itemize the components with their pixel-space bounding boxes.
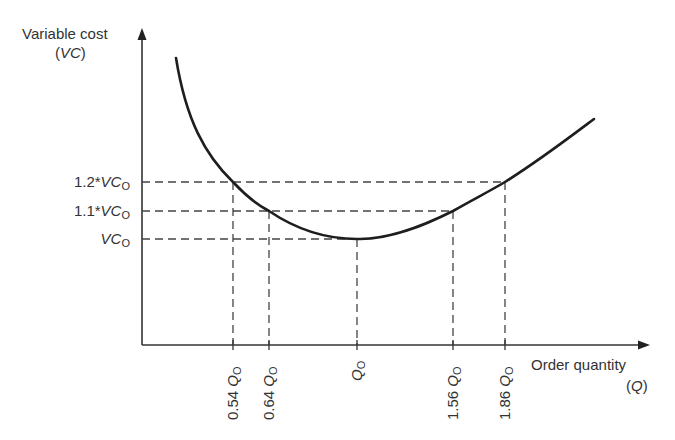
y-tick-sub: O — [121, 209, 130, 221]
x-tick-main: Q — [496, 375, 513, 387]
y-tick-vc: VCO — [0, 231, 130, 246]
variable-cost-curve — [176, 58, 594, 239]
x-tick-prefix: 1.56 — [444, 387, 461, 420]
x-axis-title-text: Order quantity — [531, 356, 626, 373]
x-tick-main: Q — [444, 375, 461, 387]
x-tick-sub: O — [355, 361, 367, 370]
x-tick-sub: O — [231, 366, 243, 375]
x-axis-symbol-text: Q — [631, 377, 643, 394]
y-tick-sub: O — [121, 237, 130, 249]
x-tick-1.56q: 1.56 QO — [445, 366, 460, 420]
x-tick-0.54q: 0.54 QO — [225, 366, 240, 420]
x-tick-main: Q — [260, 375, 277, 387]
y-tick-1.2vc: 1.2*VCO — [0, 174, 130, 189]
x-tick-main: Q — [348, 369, 365, 381]
x-tick-prefix: 0.64 — [260, 387, 277, 420]
chart-canvas — [0, 0, 675, 440]
x-tick-1.86q: 1.86 QO — [497, 366, 512, 420]
axes — [138, 28, 651, 350]
y-tick-main: VC — [101, 202, 122, 219]
y-tick-1.1vc: 1.1*VCO — [0, 203, 130, 218]
x-tick-prefix: 0.54 — [224, 387, 241, 420]
x-axis-arrow-icon — [638, 341, 650, 350]
x-tick-sub: O — [451, 366, 463, 375]
y-axis-arrow-icon — [138, 28, 147, 40]
x-tick-sub: O — [267, 366, 279, 375]
y-tick-prefix: 1.2* — [74, 173, 101, 190]
y-tick-main: VC — [101, 230, 122, 247]
y-tick-sub: O — [121, 180, 130, 192]
y-tick-main: VC — [101, 173, 122, 190]
x-tick-0.64q: 0.64 QO — [261, 366, 276, 420]
y-axis-symbol: (VC) — [55, 45, 86, 60]
y-axis-title: Variable cost — [22, 26, 108, 41]
x-axis-symbol: (Q) — [626, 378, 648, 393]
y-axis-symbol-text: VC — [60, 44, 81, 61]
x-tick-q: QO — [349, 361, 364, 381]
x-axis-title: Order quantity — [531, 357, 626, 372]
x-tick-prefix: 1.86 — [496, 387, 513, 420]
x-tick-main: Q — [224, 375, 241, 387]
x-tick-sub: O — [503, 366, 515, 375]
y-tick-prefix: 1.1* — [74, 202, 101, 219]
y-axis-title-text: Variable cost — [22, 25, 108, 42]
reference-lines — [142, 182, 505, 345]
